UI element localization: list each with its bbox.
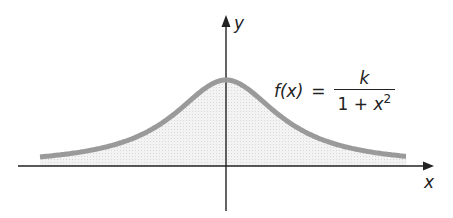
y-axis-arrow-icon [222, 15, 231, 27]
x-axis-arrow-icon [423, 162, 434, 171]
diagram-canvas: y x f(x) = k 1 + x2 [0, 0, 453, 218]
denominator-exponent: 2 [384, 92, 392, 106]
denominator-prefix: 1 + [338, 94, 374, 114]
formula-denominator: 1 + x2 [334, 89, 396, 114]
formula-equals: = [311, 81, 325, 101]
denominator-var: x [373, 94, 383, 114]
y-axis-label: y [234, 13, 244, 33]
formula-numerator: k [355, 68, 373, 89]
formula-fraction: k 1 + x2 [334, 68, 396, 114]
formula-lhs: f(x) [274, 81, 303, 101]
function-formula: f(x) = k 1 + x2 [274, 68, 395, 114]
x-axis-label: x [424, 172, 434, 192]
